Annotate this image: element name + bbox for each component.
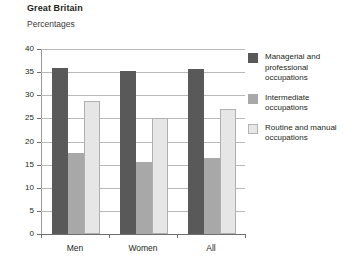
y-axis-tick [37,118,41,119]
gridline [41,95,245,96]
y-axis-tick [37,95,41,96]
bar [136,162,152,234]
y-axis-tick [37,211,41,212]
y-axis-tick-label: 25 [14,113,34,122]
bar [84,101,100,234]
x-axis-tick [41,234,42,238]
chart-title: Great Britain [27,3,83,13]
x-axis-category-label: All [177,243,245,253]
x-axis-tick [245,234,246,238]
gridline [41,72,245,73]
legend-item: Routine and manual occupations [248,123,350,144]
y-axis-tick-label: 10 [14,183,34,192]
legend-label: Intermediate occupations [265,93,349,114]
chart-legend: Managerial and professional occupationsI… [248,52,350,153]
y-axis-tick [37,188,41,189]
x-axis-category-label: Women [109,243,177,253]
legend-swatch [248,94,258,104]
y-axis-tick-label: 15 [14,160,34,169]
plot-area: MenWomenAll [41,49,245,234]
legend-label: Routine and manual occupations [265,123,349,144]
gridline [41,49,245,50]
y-axis-tick-label: 20 [14,137,34,146]
y-axis-tick [37,72,41,73]
y-axis-tick-label: 30 [14,90,34,99]
legend-swatch [248,53,258,63]
y-axis-tick [37,49,41,50]
y-axis-tick-label: 35 [14,67,34,76]
bar [188,69,204,234]
y-axis-tick-label: 40 [14,44,34,53]
gridline [41,234,245,235]
x-axis-tick [109,234,110,238]
bar [204,158,220,234]
legend-item: Intermediate occupations [248,93,350,114]
y-axis-tick-label: 5 [14,206,34,215]
bar [120,71,136,234]
gridline [41,118,245,119]
y-axis-tick [37,165,41,166]
y-axis-tick-label: 0 [14,229,34,238]
x-axis-tick [177,234,178,238]
legend-item: Managerial and professional occupations [248,52,350,84]
bar [220,109,236,234]
gridline [41,142,245,143]
legend-label: Managerial and professional occupations [265,52,349,84]
chart-subtitle: Percentages [27,19,75,29]
chart-page: Great Britain Percentages MenWomenAll 05… [0,0,353,258]
bar [52,68,68,235]
y-axis-tick [37,142,41,143]
bar [68,153,84,234]
x-axis-category-label: Men [41,243,109,253]
bar [152,118,168,234]
legend-swatch [248,124,258,134]
